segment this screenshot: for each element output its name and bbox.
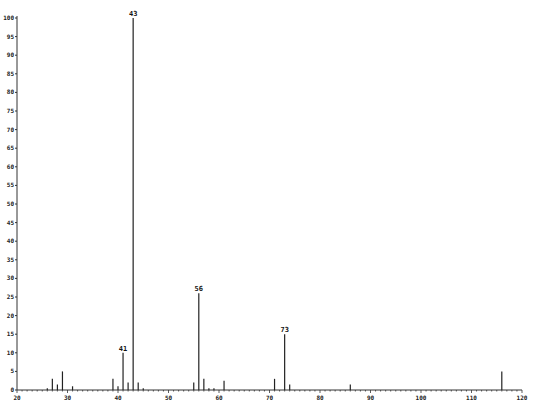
y-tick-label: 40	[7, 237, 15, 244]
y-tick-label: 80	[7, 88, 15, 95]
y-tick-label: 65	[7, 144, 15, 151]
peak-bars	[47, 18, 502, 390]
x-axis-ticks: 2030405060708090100110120	[13, 390, 527, 401]
peak-label: 73	[280, 326, 288, 334]
peak-label: 43	[129, 10, 137, 18]
peak-label: 41	[119, 345, 127, 353]
peak-labels: 41435673	[119, 10, 289, 353]
x-tick-label: 90	[367, 394, 375, 401]
y-axis-ticks: 0510152025303540455055606570758085909510…	[3, 14, 17, 393]
y-tick-label: 85	[7, 70, 15, 77]
y-tick-label: 0	[10, 386, 14, 393]
x-tick-label: 30	[64, 394, 72, 401]
x-tick-label: 120	[517, 394, 528, 401]
x-tick-label: 80	[316, 394, 324, 401]
y-tick-label: 45	[7, 219, 15, 226]
axes	[17, 16, 522, 390]
y-tick-label: 90	[7, 51, 15, 58]
y-tick-label: 70	[7, 126, 15, 133]
x-tick-label: 110	[466, 394, 477, 401]
y-tick-label: 30	[7, 274, 15, 281]
y-tick-label: 25	[7, 293, 15, 300]
x-tick-label: 40	[114, 394, 122, 401]
y-tick-label: 100	[3, 14, 14, 21]
y-tick-label: 10	[7, 349, 15, 356]
y-tick-label: 55	[7, 181, 15, 188]
x-tick-label: 50	[165, 394, 173, 401]
y-tick-label: 20	[7, 312, 15, 319]
y-tick-label: 60	[7, 163, 15, 170]
y-tick-label: 5	[10, 367, 14, 374]
y-tick-label: 75	[7, 107, 15, 114]
mass-spectrum-chart: 0510152025303540455055606570758085909510…	[0, 0, 540, 413]
x-tick-label: 70	[266, 394, 274, 401]
x-tick-label: 60	[215, 394, 223, 401]
peak-label: 56	[195, 285, 203, 293]
y-tick-label: 95	[7, 33, 15, 40]
y-tick-label: 35	[7, 256, 15, 263]
y-tick-label: 15	[7, 330, 15, 337]
y-tick-label: 50	[7, 200, 15, 207]
x-tick-label: 100	[416, 394, 427, 401]
x-tick-label: 20	[13, 394, 21, 401]
